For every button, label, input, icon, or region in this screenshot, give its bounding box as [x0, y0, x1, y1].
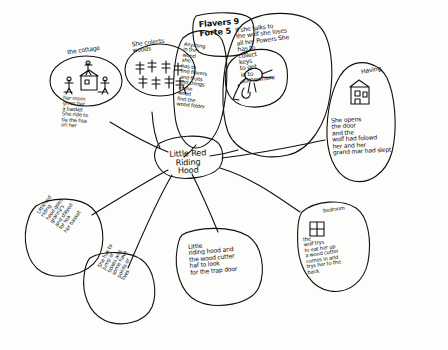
- stick-figure-3: [85, 61, 92, 75]
- tree-3: [162, 61, 170, 73]
- bubble-bedroom: [297, 202, 369, 291]
- connector-trapdoor: [192, 174, 218, 232]
- tree-2: [148, 60, 156, 72]
- wolf-sketch-1: [245, 68, 263, 81]
- wolf-sketch-2: [236, 70, 273, 93]
- wolf-sketch-4: [233, 92, 239, 100]
- bubble-woods: [125, 44, 195, 96]
- tree-5: [139, 76, 147, 88]
- window-icon-shape: [310, 222, 324, 236]
- connector-wolf: [210, 150, 238, 156]
- connector-woods: [152, 112, 160, 148]
- mind-map-canvas: Little Red Riding Hood the cottage her m…: [0, 0, 448, 350]
- bubble-trapdoor: [176, 228, 262, 305]
- connector-bedroom: [220, 168, 300, 212]
- bubble-anything: [174, 31, 227, 148]
- sketch-layer: [0, 0, 448, 350]
- connector-granny: [92, 170, 168, 215]
- bubble-flavers: [193, 13, 254, 57]
- tree-6: [152, 77, 160, 89]
- tree-7: [165, 76, 173, 88]
- house-icon-shape: [350, 80, 369, 104]
- wolf-drawing-blob: [225, 49, 287, 107]
- cottage-house-shape: [80, 70, 98, 90]
- bubble-granny: [25, 199, 102, 276]
- tree-8: [176, 78, 184, 90]
- tree-1: [136, 62, 144, 74]
- bubble-having: [327, 63, 395, 182]
